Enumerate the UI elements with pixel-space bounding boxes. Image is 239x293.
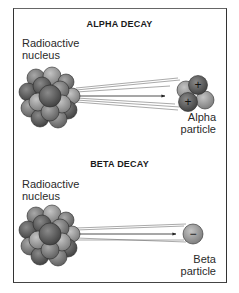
alpha-radioactive-nucleus	[19, 67, 80, 128]
alpha-proton-charge-2: +	[184, 95, 191, 109]
decay-illustration: + + −	[0, 0, 239, 293]
alpha-motion-lines	[76, 78, 180, 110]
alpha-proton-charge-1: +	[194, 78, 201, 92]
beta-radioactive-nucleus	[19, 205, 80, 266]
beta-electron-charge: −	[189, 227, 196, 241]
beta-motion-lines	[76, 224, 186, 242]
